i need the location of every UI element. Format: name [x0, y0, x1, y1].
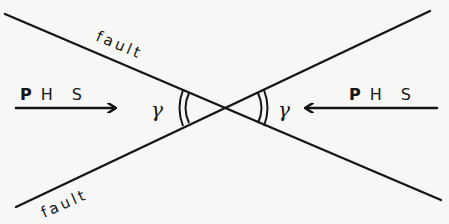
left-angle-double-arc	[180, 90, 190, 126]
fault-label-bottom: fault	[38, 185, 90, 221]
phs-label-left-p: P	[20, 85, 39, 104]
phs-label-left: PH S	[20, 85, 89, 104]
right-angle-double-arc	[258, 90, 268, 126]
phs-label-left-hs: H S	[41, 85, 89, 104]
phs-label-right-hs: H S	[370, 85, 418, 104]
phs-label-right: PH S	[349, 85, 418, 104]
fault-label-top: fault	[93, 27, 145, 63]
phs-label-right-p: P	[349, 85, 368, 104]
diagram-svg: fault fault PH S PH S γ γ	[0, 0, 449, 224]
conjugate-fault-diagram: fault fault PH S PH S γ γ	[0, 0, 449, 224]
gamma-symbol-left: γ	[151, 98, 163, 122]
gamma-symbol-right: γ	[278, 98, 290, 122]
